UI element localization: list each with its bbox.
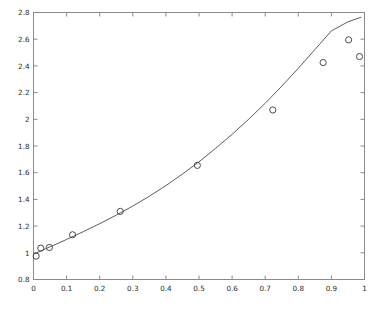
y-axis-tick-label: 1 — [25, 249, 30, 258]
y-axis-tick-label: 1.8 — [18, 142, 30, 151]
x-axis-tick-label: 1 — [362, 284, 367, 293]
y-axis-tick-label: 1.4 — [18, 195, 30, 204]
x-axis-tick-label: 0.1 — [61, 284, 72, 293]
y-axis-tick-label: 1.2 — [18, 222, 29, 231]
y-axis-tick-label: 0.8 — [18, 275, 30, 284]
data-point-marker — [346, 37, 352, 43]
data-point-marker — [270, 107, 276, 113]
plot-frame — [34, 13, 365, 280]
y-axis-tick-label: 2.6 — [18, 35, 30, 44]
plot-svg: 00.10.20.30.40.50.60.70.80.910.811.21.41… — [0, 0, 380, 318]
figure-canvas: 00.10.20.30.40.50.60.70.80.910.811.21.41… — [0, 0, 380, 318]
y-axis-tick-label: 2.4 — [18, 62, 30, 71]
data-point-marker — [356, 53, 362, 59]
x-axis-tick-label: 0 — [31, 284, 36, 293]
y-axis-tick-label: 1.6 — [18, 168, 30, 177]
x-axis-tick-label: 0.6 — [226, 284, 238, 293]
x-axis-tick-label: 0.8 — [293, 284, 305, 293]
y-axis-tick-label: 2 — [25, 115, 30, 124]
x-axis-tick-label: 0.4 — [160, 284, 172, 293]
x-axis-tick-label: 0.5 — [193, 284, 204, 293]
data-point-marker — [320, 59, 326, 65]
x-axis-tick-label: 0.2 — [94, 284, 105, 293]
x-axis-tick-label: 0.7 — [259, 284, 270, 293]
y-axis-tick-label: 2.2 — [18, 88, 29, 97]
x-axis-tick-label: 0.3 — [127, 284, 138, 293]
x-axis-tick-label: 0.9 — [326, 284, 338, 293]
series-line-fit — [34, 17, 362, 254]
y-axis-tick-label: 2.8 — [18, 8, 30, 17]
